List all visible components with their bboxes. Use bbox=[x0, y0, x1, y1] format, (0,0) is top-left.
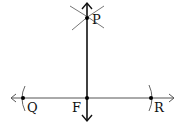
point-Q bbox=[21, 96, 25, 100]
point-P bbox=[85, 16, 89, 20]
point-R bbox=[149, 96, 153, 100]
point-F bbox=[85, 96, 89, 100]
label-Q: Q bbox=[27, 100, 38, 115]
label-F: F bbox=[72, 100, 81, 115]
construction-diagram: P Q F R bbox=[0, 0, 181, 126]
label-R: R bbox=[154, 100, 165, 115]
label-P: P bbox=[92, 12, 101, 27]
